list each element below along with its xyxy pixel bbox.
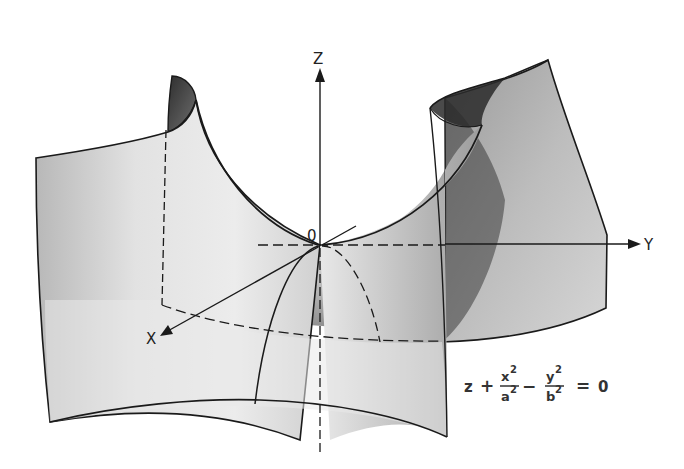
z-axis-label: Z xyxy=(313,50,323,68)
eq-frac2-den: b xyxy=(546,389,555,404)
eq-rhs: 0 xyxy=(598,378,608,396)
eq-frac1-den: a xyxy=(501,389,510,404)
y-axis-arrowhead xyxy=(628,239,641,249)
eq-minus: − xyxy=(522,376,536,396)
eq-equals: = xyxy=(576,376,590,396)
x-axis-label: X xyxy=(146,330,156,348)
eq-frac1-den-exp: 2 xyxy=(510,384,517,395)
equation: z + x 2 a 2 − y 2 b 2 = 0 xyxy=(464,364,608,404)
saddle-surface-diagram: Z Y X 0 z + x 2 a 2 − y 2 b 2 = 0 xyxy=(0,0,684,469)
eq-frac1-num: x xyxy=(501,369,510,384)
eq-z: z xyxy=(464,378,473,396)
eq-frac2-num-exp: 2 xyxy=(555,364,562,375)
eq-frac2-num: y xyxy=(546,369,555,384)
y-axis-label: Y xyxy=(643,236,654,254)
eq-plus: + xyxy=(480,376,494,396)
origin-label: 0 xyxy=(307,227,317,245)
eq-frac1-num-exp: 2 xyxy=(510,364,517,375)
eq-frac2-den-exp: 2 xyxy=(555,384,562,395)
z-axis-arrowhead xyxy=(315,68,325,82)
